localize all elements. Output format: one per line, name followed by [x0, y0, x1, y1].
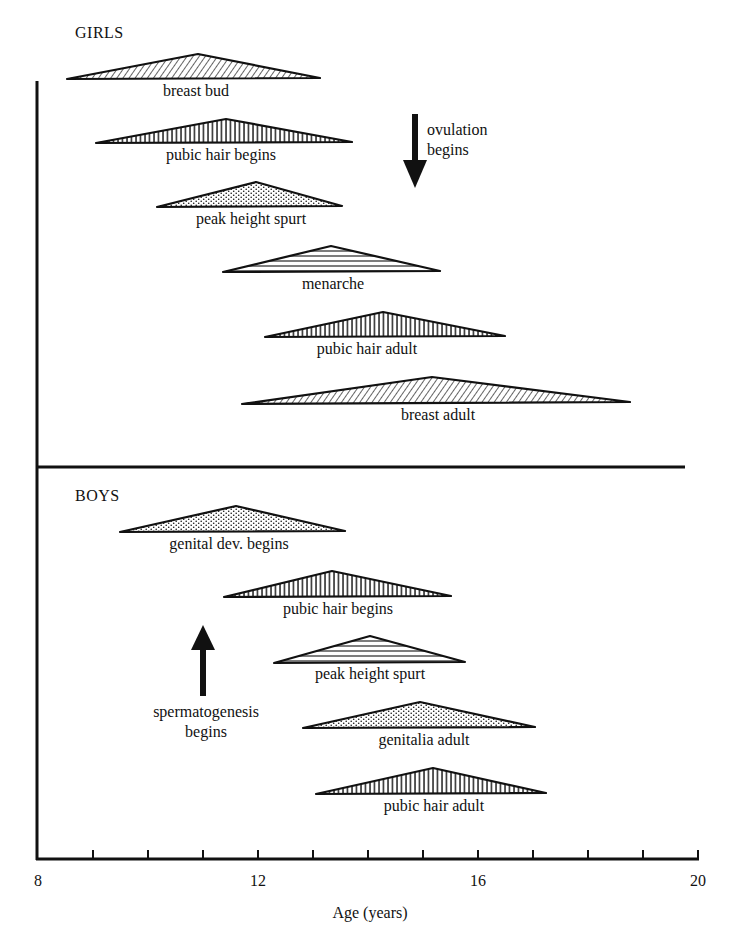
section-title-girls: GIRLS [75, 24, 124, 41]
event-label: genitalia adult [378, 731, 470, 749]
event-pubic-hair-begins-girls: pubic hair begins [96, 119, 352, 164]
event-label: pubic hair adult [384, 797, 485, 815]
annotation-label: begins [427, 141, 469, 159]
section-title-boys: BOYS [75, 487, 120, 504]
x-tick-label: 8 [34, 872, 42, 889]
event-label: breast adult [401, 406, 476, 423]
x-axis-title: Age (years) [332, 904, 407, 922]
event-breast-adult: breast adult [242, 377, 630, 423]
event-label: menarche [302, 275, 364, 292]
event-label: breast bud [163, 82, 229, 99]
event-label: pubic hair begins [283, 600, 393, 618]
event-pubic-hair-begins-boys: pubic hair begins [224, 571, 451, 618]
annotation-label: begins [185, 723, 227, 741]
event-peak-height-spurt-boys: peak height spurt [274, 636, 465, 683]
arrow-down-icon [403, 114, 427, 188]
event-pubic-hair-adult-boys: pubic hair adult [316, 768, 546, 815]
event-label: pubic hair begins [166, 146, 276, 164]
event-genitalia-adult: genitalia adult [303, 702, 535, 749]
x-tick-label: 20 [690, 872, 706, 889]
x-tick-label: 12 [250, 872, 266, 889]
spermatogenesis-begins-annotation: spermatogenesis begins [153, 625, 259, 741]
event-breast-bud-girls: breast bud [67, 54, 320, 99]
annotation-label: ovulation [427, 121, 487, 138]
event-label: pubic hair adult [317, 340, 418, 358]
event-label: peak height spurt [196, 210, 307, 228]
arrow-up-icon [191, 625, 215, 696]
event-label: genital dev. begins [169, 535, 288, 553]
event-label: peak height spurt [315, 665, 426, 683]
event-menarche: menarche [223, 246, 440, 292]
puberty-timeline-chart: 8 12 16 20 Age (years) GIRLS BOYS breast… [0, 0, 736, 943]
event-genital-dev-begins: genital dev. begins [120, 506, 345, 553]
annotation-label: spermatogenesis [153, 703, 259, 721]
ovulation-begins-annotation: ovulation begins [403, 114, 487, 188]
event-peak-height-spurt-girls: peak height spurt [157, 182, 342, 228]
event-pubic-hair-adult-girls: pubic hair adult [265, 312, 505, 358]
x-tick-label: 16 [470, 872, 486, 889]
